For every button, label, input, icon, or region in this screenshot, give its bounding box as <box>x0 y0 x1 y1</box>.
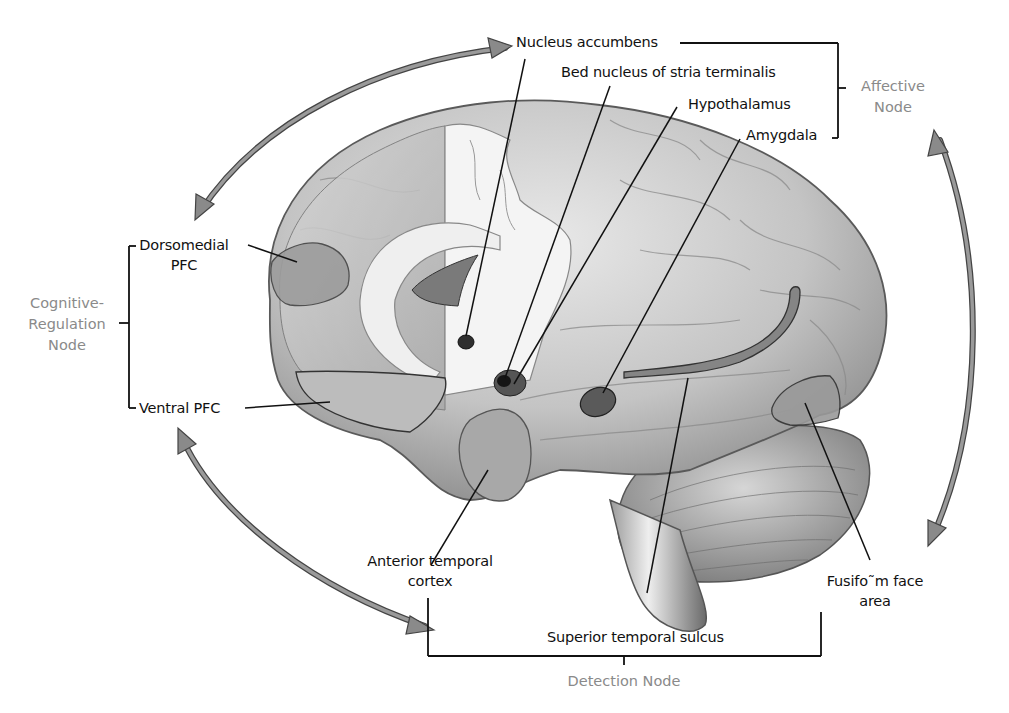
cognitive-regulation-node-label: Cognitive- Regulation Node <box>22 293 112 356</box>
dorsomedial-pfc-region <box>271 243 349 306</box>
arrow-affective-to-detection <box>928 130 973 546</box>
label-hypothalamus: Hypothalamus <box>688 94 791 114</box>
label-superior-temporal-sulcus: Superior temporal sulcus <box>547 627 724 647</box>
label-amygdala: Amygdala <box>746 125 817 145</box>
label-bed-nucleus: Bed nucleus of stria terminalis <box>561 62 776 82</box>
affective-node-label: Affective Node <box>853 76 933 118</box>
affective-bracket <box>680 43 846 138</box>
dorsomedial-line1: Dorsomedial <box>136 235 232 255</box>
fusiform-line1: Fusifo˜m face <box>825 571 925 591</box>
cognitive-node-line1: Cognitive- <box>22 293 112 314</box>
label-nucleus-accumbens: Nucleus accumbens <box>516 32 658 52</box>
brain-network-diagram: Affective Node Cognitive- Regulation Nod… <box>0 0 1009 713</box>
label-ventral-pfc: Ventral PFC <box>139 398 220 418</box>
label-fusiform-face-area: Fusifo˜m face area <box>825 571 925 611</box>
label-anterior-temporal-cortex: Anterior temporal cortex <box>360 551 500 591</box>
detection-node-label: Detection Node <box>564 671 684 692</box>
ventral-pfc-region <box>296 371 446 432</box>
cognitive-regulation-bracket <box>119 246 136 408</box>
cognitive-node-line2: Regulation <box>22 314 112 335</box>
nucleus-accumbens-region <box>458 335 474 349</box>
label-dorsomedial-pfc: Dorsomedial PFC <box>136 235 232 275</box>
cognitive-node-line3: Node <box>22 335 112 356</box>
affective-node-line2: Node <box>853 97 933 118</box>
anterior-temporal-line1: Anterior temporal <box>360 551 500 571</box>
anterior-temporal-line2: cortex <box>360 571 500 591</box>
bed-nucleus-region <box>497 375 511 387</box>
fusiform-line2: area <box>825 591 925 611</box>
affective-node-line1: Affective <box>853 76 933 97</box>
arrow-cognitive-to-detection <box>178 428 434 634</box>
dorsomedial-line2: PFC <box>136 255 232 275</box>
